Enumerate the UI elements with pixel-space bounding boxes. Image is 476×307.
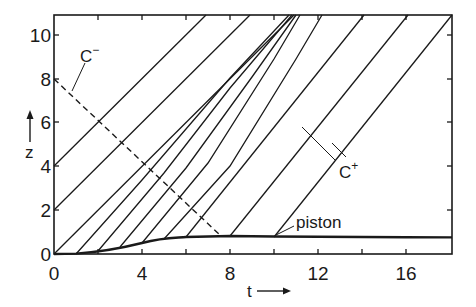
x-axis-arrow-icon — [257, 288, 291, 295]
svg-text:10: 10 — [30, 25, 51, 46]
x-axis-label: t — [247, 282, 252, 301]
c-minus-label: C− — [80, 43, 99, 66]
piston-curve — [54, 236, 452, 254]
svg-text:0: 0 — [40, 244, 51, 265]
c-plus-leader-1 — [302, 127, 336, 161]
svg-text:16: 16 — [395, 263, 416, 284]
svg-text:2: 2 — [40, 200, 51, 221]
c-minus-dashed-line — [54, 79, 221, 236]
c-plus-line — [98, 15, 292, 251]
svg-text:0: 0 — [49, 263, 60, 284]
y-axis-label: z — [25, 143, 34, 162]
c-plus-label: C+ — [339, 159, 358, 182]
svg-text:4: 4 — [137, 263, 148, 284]
c-plus-line — [54, 15, 206, 166]
y-axis-arrow-icon — [27, 110, 34, 142]
svg-text:6: 6 — [40, 112, 51, 133]
c-plus-line — [54, 15, 250, 210]
svg-text:8: 8 — [225, 263, 236, 284]
piston-label: piston — [296, 213, 341, 232]
svg-text:8: 8 — [40, 69, 51, 90]
svg-text:12: 12 — [307, 263, 328, 284]
x-tick-labels: 0 4 8 12 16 — [49, 263, 417, 284]
c-minus-leader — [72, 63, 85, 91]
c-plus-line — [186, 15, 364, 237]
c-plus-line — [230, 15, 408, 236]
svg-text:4: 4 — [40, 156, 51, 177]
characteristics-chart: C− C+ piston 0 4 8 12 16 0 2 4 6 8 10 t … — [0, 0, 476, 307]
c-plus-line — [120, 15, 296, 247]
c-plus-line — [142, 15, 300, 243]
c-plus-line — [274, 15, 452, 237]
